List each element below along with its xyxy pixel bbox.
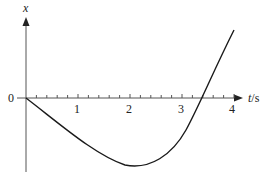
t-axis-label: t/s <box>248 91 260 105</box>
origin-label: 0 <box>8 91 14 105</box>
tick-label-3: 3 <box>178 102 184 116</box>
tick-label-1: 1 <box>74 102 80 116</box>
tick-label-4: 4 <box>229 102 235 116</box>
tick-marks <box>36 94 234 98</box>
arrow-right-icon <box>234 95 243 102</box>
arrow-up-icon <box>23 17 30 26</box>
chart: x t/s 0 1 2 3 4 <box>0 0 269 173</box>
tick-label-2: 2 <box>126 102 132 116</box>
y-axis-label: x <box>22 1 29 15</box>
